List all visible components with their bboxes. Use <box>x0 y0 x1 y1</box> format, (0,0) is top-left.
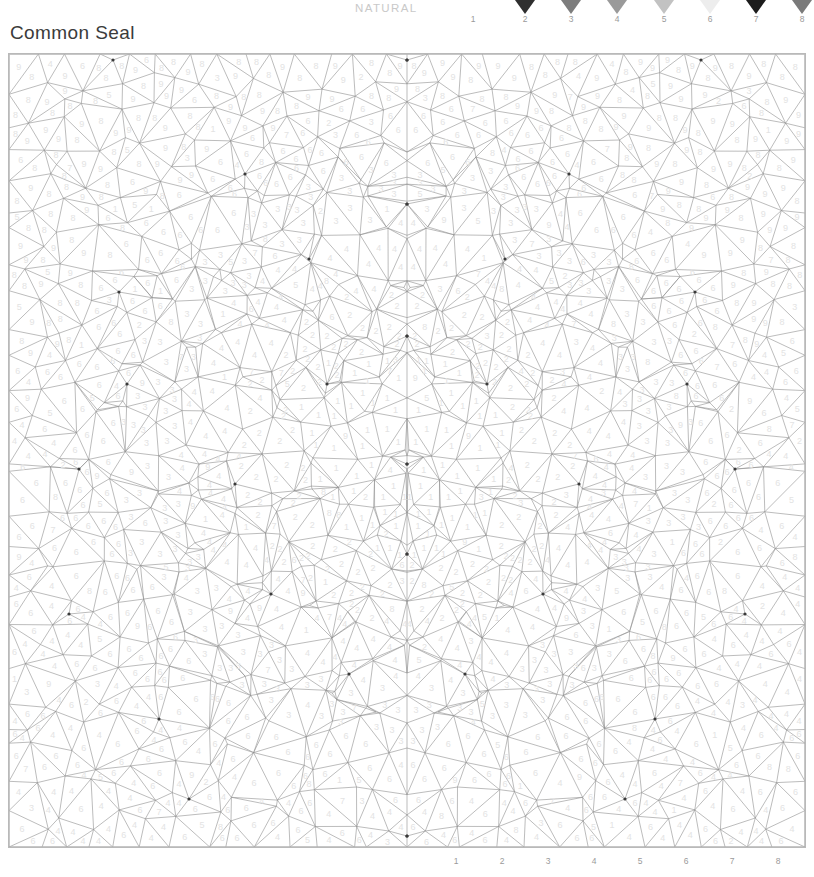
facet-number: 2 <box>360 323 365 333</box>
facet-number: 6 <box>746 478 751 488</box>
palette-swatch-3[interactable]: 3 <box>551 0 591 30</box>
facet-number: 4 <box>632 486 637 496</box>
facet-number: 6 <box>366 137 371 147</box>
palette-swatch-7[interactable]: 7 <box>736 0 776 30</box>
facet-number: 6 <box>113 275 118 285</box>
facet-number: 4 <box>433 243 438 253</box>
facet-number: 6 <box>636 632 641 642</box>
facet-number: 8 <box>422 322 427 332</box>
palette-swatch-2[interactable]: 2 <box>505 0 545 30</box>
facet-number: 6 <box>121 830 126 840</box>
facet-number: 9 <box>51 243 56 253</box>
facet-number: 9 <box>79 119 84 129</box>
facet-number: 2 <box>303 344 308 354</box>
palette-swatch-5[interactable]: 5 <box>644 0 684 30</box>
facet-number: 4 <box>659 582 664 592</box>
facet-number: 4 <box>68 723 73 733</box>
facet-number: 4 <box>781 608 786 618</box>
facet-number: 1 <box>473 510 478 520</box>
facet-number: 4 <box>344 244 349 254</box>
facet-number: 8 <box>759 108 764 118</box>
facet-number: 2 <box>524 379 529 389</box>
facet-number: 4 <box>535 604 540 614</box>
facet-number: 6 <box>693 391 698 401</box>
facet-number: 6 <box>145 255 150 265</box>
facet-number: 3 <box>382 700 387 710</box>
facet-number: 2 <box>369 613 374 623</box>
facet-number: 1 <box>441 549 446 559</box>
palette-swatch-4[interactable]: 4 <box>597 0 637 30</box>
facet-number: 2 <box>436 326 441 336</box>
facet-number: 6 <box>724 430 729 440</box>
facet-number: 4 <box>471 717 476 727</box>
palette-swatch-1[interactable]: 1 <box>453 0 493 30</box>
facet-number: 1 <box>221 309 226 319</box>
facet-number: 8 <box>306 779 311 789</box>
facet-number: 4 <box>219 343 224 353</box>
facet-number: 4 <box>50 730 55 740</box>
facet-number: 1 <box>12 674 17 684</box>
facet-number: 3 <box>169 385 174 395</box>
facet-number: 4 <box>728 770 733 780</box>
facet-number: 3 <box>667 402 672 412</box>
facet-number: 4 <box>508 463 513 473</box>
facet-number: 6 <box>641 644 646 654</box>
facet-number: 6 <box>758 787 763 797</box>
facet-number: 6 <box>657 735 662 745</box>
facet-number: 6 <box>422 774 427 784</box>
facet-number: 6 <box>145 278 150 288</box>
facet-number: 6 <box>387 774 392 784</box>
facet-number: 7 <box>301 575 306 585</box>
facet-number: 6 <box>130 296 135 306</box>
facet-number: 3 <box>653 377 658 387</box>
facet-number: 4 <box>51 787 56 797</box>
facet-number: 2 <box>449 323 454 333</box>
facet-number: 6 <box>134 726 139 736</box>
facet-number: 6 <box>50 836 55 846</box>
facet-number: 9 <box>781 183 786 193</box>
puzzle-frame[interactable]: 9848886899938989886998898984983988889498… <box>8 53 806 848</box>
facet-number: 6 <box>212 739 217 749</box>
swatch-number: 2 <box>505 14 545 24</box>
facet-number: 8 <box>611 319 616 329</box>
facet-number: 8 <box>22 281 27 291</box>
facet-number: 1 <box>416 509 421 519</box>
facet-number: 8 <box>12 270 17 280</box>
facet-number: 4 <box>422 807 427 817</box>
facet-number: 6 <box>314 740 319 750</box>
facet-number: 6 <box>558 820 563 830</box>
facet-number: 3 <box>740 700 745 710</box>
palette-swatch-6[interactable]: 6 <box>690 0 730 30</box>
facet-number: 1 <box>351 486 356 496</box>
facet-number: 4 <box>259 796 264 806</box>
facet-number: 3 <box>318 674 323 684</box>
facet-number: 4 <box>184 573 189 583</box>
low-poly-puzzle-artwork[interactable]: 9848886899938989886998898984983988889498… <box>9 54 805 847</box>
facet-number: 6 <box>159 744 164 754</box>
facet-number: 4 <box>46 805 51 815</box>
facet-number: 2 <box>570 461 575 471</box>
facet-number: 4 <box>659 781 664 791</box>
facet-number: 3 <box>468 707 473 717</box>
facet-number: 6 <box>693 539 698 549</box>
facet-number: 4 <box>764 367 769 377</box>
facet-number: 4 <box>782 572 787 582</box>
palette-swatch-8[interactable]: 8 <box>782 0 814 30</box>
facet-number: 6 <box>757 543 762 553</box>
facet-number: 1 <box>518 781 523 791</box>
facet-number: 9 <box>413 373 418 383</box>
facet-number: 4 <box>211 545 216 555</box>
facet-number: 6 <box>138 805 143 815</box>
facet-number: 6 <box>96 322 101 332</box>
facet-number: 2 <box>318 206 323 216</box>
facet-number: 6 <box>583 698 588 708</box>
facet-number: 9 <box>68 268 73 278</box>
facet-number: 4 <box>784 393 789 403</box>
facet-number: 1 <box>424 356 429 366</box>
facet-number: 3 <box>573 661 578 671</box>
facet-number: 2 <box>462 310 467 320</box>
facet-number: 6 <box>215 225 220 235</box>
facet-number: 9 <box>791 155 796 165</box>
facet-number: 4 <box>216 471 221 481</box>
facet-number: 9 <box>16 552 21 562</box>
